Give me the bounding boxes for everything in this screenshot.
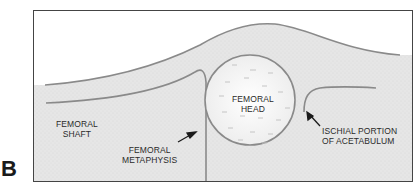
label-ischial-portion: ISCHIAL PORTION OF ACETABULUM	[322, 126, 397, 146]
label-femoral-head: FEMORAL HEAD	[232, 94, 274, 114]
label-femoral-shaft: FEMORAL SHAFT	[56, 119, 98, 139]
hip-anatomy-drawing	[0, 0, 417, 189]
label-femoral-metaphysis: FEMORAL METAPHYSIS	[122, 145, 177, 165]
